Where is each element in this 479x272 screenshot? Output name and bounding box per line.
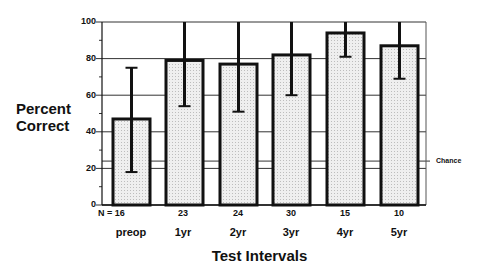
bar-4yr [327, 33, 364, 205]
n-label-2yr: 24 [218, 208, 258, 218]
chance-label: Chance [436, 157, 461, 164]
x-axis-label: Test Intervals [0, 247, 479, 264]
x-category-preop: preop [111, 226, 151, 238]
x-category-1yr: 1yr [163, 226, 203, 238]
n-label-4yr: 15 [325, 208, 365, 218]
x-category-4yr: 4yr [325, 226, 365, 238]
x-category-3yr: 3yr [271, 226, 311, 238]
x-category-2yr: 2yr [218, 226, 258, 238]
n-label-1yr: 23 [163, 208, 203, 218]
n-label-3yr: 30 [271, 208, 311, 218]
x-category-5yr: 5yr [379, 226, 419, 238]
n-label-5yr: 10 [379, 208, 419, 218]
n-label-preop: N = 16 [98, 208, 148, 218]
